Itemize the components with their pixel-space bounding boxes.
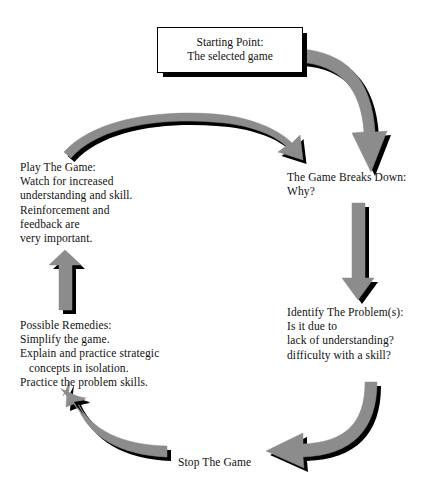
arrow-layer xyxy=(0,0,444,503)
possible-remedies-line-5: Practice the problem skills. xyxy=(20,375,159,389)
starting-point-box: Starting Point: The selected game xyxy=(157,27,303,73)
starting-point-text: Starting Point: The selected game xyxy=(158,28,302,63)
arrow-start-to-breaks-down xyxy=(299,49,391,176)
game-breaks-down-label: The Game Breaks Down:Why? xyxy=(287,170,406,198)
play-the-game-line-6: very important. xyxy=(20,231,133,245)
starting-point-line-2: The selected game xyxy=(187,50,273,62)
possible-remedies-label: Possible Remedies:Simplify the game.Expl… xyxy=(20,318,159,389)
play-the-game-line-3: understanding and skill. xyxy=(20,188,133,202)
play-the-game-label: Play The Game:Watch for increasedunderst… xyxy=(20,160,133,245)
game-breaks-down-line-2: Why? xyxy=(287,184,406,198)
play-the-game-line-5: feedback are xyxy=(20,217,133,231)
starting-point-line-1: Starting Point: xyxy=(197,36,264,48)
identify-problem-label: Identify The Problem(s):Is it due tolack… xyxy=(287,305,404,362)
arrow-play-to-breaks-down xyxy=(64,113,307,164)
game-breaks-down-line-1: The Game Breaks Down: xyxy=(287,170,406,184)
identify-problem-line-3: lack of understanding? xyxy=(287,333,404,347)
play-the-game-line-4: Reinforcement and xyxy=(20,203,133,217)
identify-problem-line-1: Identify The Problem(s): xyxy=(287,305,404,319)
identify-problem-line-2: Is it due to xyxy=(287,319,404,333)
arrow-identify-to-stop xyxy=(266,382,381,472)
play-the-game-line-2: Watch for increased xyxy=(20,174,133,188)
diagram-canvas: Starting Point: The selected game The Ga… xyxy=(0,0,444,503)
possible-remedies-line-4: concepts in isolation. xyxy=(20,361,159,375)
identify-problem-line-4: difficulty with a skill? xyxy=(287,348,404,362)
possible-remedies-line-3: Explain and practice strategic xyxy=(20,346,159,360)
possible-remedies-line-1: Possible Remedies: xyxy=(20,318,159,332)
arrow-remedies-to-play xyxy=(49,250,85,314)
play-the-game-line-1: Play The Game: xyxy=(20,160,133,174)
arrow-stop-to-remedies xyxy=(60,381,171,461)
stop-the-game-line-1: Stop The Game xyxy=(178,455,251,469)
arrow-breaks-down-to-identify xyxy=(342,203,378,304)
stop-the-game-label: Stop The Game xyxy=(178,455,251,469)
possible-remedies-line-2: Simplify the game. xyxy=(20,332,159,346)
